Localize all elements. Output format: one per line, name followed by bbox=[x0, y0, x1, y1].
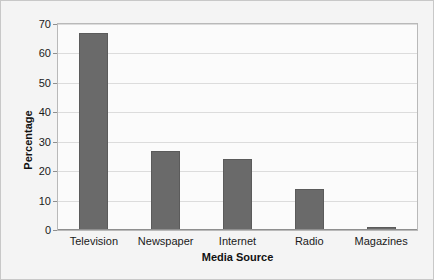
x-axis-tick-label: Newspaper bbox=[138, 235, 194, 247]
x-axis-baseline bbox=[58, 229, 417, 230]
y-axis-tick-mark bbox=[53, 83, 57, 84]
y-axis-tick-label: 10 bbox=[5, 195, 51, 206]
y-axis-tick-label: 0 bbox=[5, 225, 51, 236]
chart-screenshot: 010203040506070 Percentage TelevisionNew… bbox=[0, 0, 434, 280]
y-axis-tick-mark bbox=[53, 142, 57, 143]
x-axis-tick-label: Magazines bbox=[354, 235, 407, 247]
y-axis-tick-mark bbox=[53, 171, 57, 172]
bar-radio bbox=[295, 189, 324, 230]
y-axis-tick-label: 70 bbox=[5, 19, 51, 30]
x-axis-title: Media Source bbox=[57, 251, 418, 263]
y-axis-tick-label: 60 bbox=[5, 48, 51, 59]
bar-internet bbox=[223, 159, 252, 230]
y-axis-tick-mark bbox=[53, 53, 57, 54]
x-axis-tick-label: Radio bbox=[295, 235, 324, 247]
bar-newspaper bbox=[151, 151, 180, 230]
y-axis-tick-mark bbox=[53, 230, 57, 231]
x-axis-tick-label: Television bbox=[70, 235, 118, 247]
y-axis-tick-mark bbox=[53, 201, 57, 202]
chart-figure: 010203040506070 Percentage TelevisionNew… bbox=[1, 1, 433, 279]
x-axis-tick-label: Internet bbox=[219, 235, 256, 247]
plot-area bbox=[57, 23, 418, 231]
bars-layer bbox=[58, 24, 417, 230]
y-axis-tick-mark bbox=[53, 24, 57, 25]
bar-television bbox=[79, 33, 108, 230]
y-axis-tick-label: 50 bbox=[5, 77, 51, 88]
y-axis-tick-mark bbox=[53, 112, 57, 113]
y-axis-title: Percentage bbox=[22, 110, 34, 169]
